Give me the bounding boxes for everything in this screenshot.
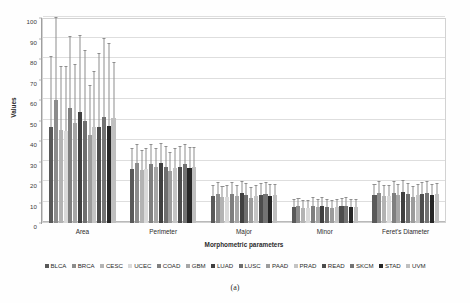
bar-stad-perimeter[interactable] [187, 148, 191, 223]
bar-ucec-major[interactable] [225, 186, 229, 223]
bar-gbm-feret-s-diameter[interactable] [396, 185, 400, 223]
bar-luad-perimeter[interactable] [159, 144, 163, 223]
bar-read-major[interactable] [259, 184, 263, 223]
legend-item-stad[interactable]: STAD [379, 262, 401, 269]
legend-swatch-icon [322, 264, 326, 268]
error-bar-cap [178, 146, 181, 147]
bar-brca-perimeter[interactable] [135, 145, 139, 223]
error-bar-line [99, 54, 100, 127]
error-bar-cap [59, 66, 62, 67]
bar-rect [59, 130, 63, 223]
bar-read-area[interactable] [97, 54, 101, 223]
legend-item-blca[interactable]: BLCA [45, 262, 67, 269]
bar-ucec-minor[interactable] [306, 201, 310, 223]
bar-luad-major[interactable] [240, 182, 244, 223]
bar-paad-feret-s-diameter[interactable] [411, 187, 415, 223]
legend-item-ucec[interactable]: UCEC [128, 262, 151, 269]
legend-item-brca[interactable]: BRCA [72, 262, 95, 269]
bar-gbm-minor[interactable] [316, 200, 320, 223]
bar-lusc-area[interactable] [83, 51, 87, 223]
legend-label: UVM [412, 262, 425, 269]
bar-brca-minor[interactable] [296, 199, 300, 223]
bar-luad-area[interactable] [78, 36, 82, 223]
bar-gbm-major[interactable] [235, 186, 239, 223]
error-bar-cap [326, 199, 329, 200]
bar-read-feret-s-diameter[interactable] [420, 183, 424, 223]
bar-coad-area[interactable] [68, 37, 72, 223]
bar-ucec-perimeter[interactable] [144, 149, 148, 223]
bar-brca-major[interactable] [216, 183, 220, 223]
bar-uvm-perimeter[interactable] [192, 148, 196, 223]
bar-gbm-area[interactable] [73, 65, 77, 223]
bar-paad-major[interactable] [249, 188, 253, 223]
bar-paad-area[interactable] [88, 86, 92, 223]
legend-item-cesc[interactable]: CESC [100, 262, 123, 269]
bar-read-minor[interactable] [339, 199, 343, 223]
bar-uvm-major[interactable] [273, 185, 277, 223]
error-bar-cap [335, 199, 338, 200]
error-bar-cap [64, 66, 67, 67]
bar-read-perimeter[interactable] [178, 147, 182, 223]
bar-coad-major[interactable] [230, 183, 234, 223]
bar-stad-feret-s-diameter[interactable] [430, 185, 434, 223]
bar-lusc-feret-s-diameter[interactable] [406, 184, 410, 223]
bar-brca-feret-s-diameter[interactable] [377, 182, 381, 223]
bar-group [123, 18, 204, 223]
bar-rect [377, 193, 381, 223]
bar-uvm-feret-s-diameter[interactable] [435, 184, 439, 223]
bar-cesc-feret-s-diameter[interactable] [382, 186, 386, 223]
bar-paad-minor[interactable] [330, 201, 334, 223]
error-bar-cap [402, 180, 405, 181]
error-bar-cap [131, 148, 134, 149]
legend-label: COAD [163, 262, 180, 269]
bar-prad-minor[interactable] [335, 200, 339, 223]
bar-coad-feret-s-diameter[interactable] [392, 182, 396, 223]
bar-paad-perimeter[interactable] [168, 153, 172, 223]
legend-item-lusc[interactable]: LUSC [239, 262, 261, 269]
bar-skcm-feret-s-diameter[interactable] [425, 182, 429, 223]
bar-cesc-area[interactable] [59, 67, 63, 223]
legend-item-luad[interactable]: LUAD [211, 262, 233, 269]
legend-item-prad[interactable]: PRAD [294, 262, 317, 269]
bar-prad-major[interactable] [254, 186, 258, 223]
legend-item-coad[interactable]: COAD [157, 262, 180, 269]
bar-blca-area[interactable] [49, 57, 53, 223]
bar-prad-feret-s-diameter[interactable] [416, 185, 420, 223]
bar-stad-minor[interactable] [349, 200, 353, 223]
bar-skcm-major[interactable] [263, 183, 267, 223]
error-bar-cap [421, 182, 424, 183]
bar-blca-feret-s-diameter[interactable] [372, 185, 376, 223]
bar-coad-perimeter[interactable] [149, 145, 153, 223]
bar-ucec-area[interactable] [64, 67, 68, 223]
legend-item-read[interactable]: READ [322, 262, 345, 269]
legend-item-paad[interactable]: PAAD [266, 262, 288, 269]
bar-luad-feret-s-diameter[interactable] [401, 181, 405, 223]
bar-uvm-area[interactable] [111, 63, 115, 223]
bar-brca-area[interactable] [54, 18, 58, 223]
bar-cesc-perimeter[interactable] [140, 151, 144, 223]
legend-item-gbm[interactable]: GBM [186, 262, 206, 269]
bar-cesc-major[interactable] [220, 187, 224, 223]
bar-lusc-major[interactable] [244, 184, 248, 223]
error-bar-cap [250, 187, 253, 188]
bar-ucec-feret-s-diameter[interactable] [387, 186, 391, 223]
bar-stad-area[interactable] [107, 44, 111, 223]
bar-lusc-minor[interactable] [325, 200, 329, 223]
bar-stad-major[interactable] [268, 185, 272, 223]
bar-skcm-perimeter[interactable] [183, 145, 187, 223]
bar-gbm-perimeter[interactable] [154, 149, 158, 223]
bar-prad-area[interactable] [92, 72, 96, 223]
bar-luad-minor[interactable] [320, 198, 324, 223]
legend-item-skcm[interactable]: SKCM [350, 262, 373, 269]
bar-lusc-perimeter[interactable] [164, 147, 168, 223]
bar-skcm-minor[interactable] [344, 198, 348, 223]
bar-prad-perimeter[interactable] [173, 149, 177, 223]
bar-uvm-minor[interactable] [354, 200, 358, 223]
bar-blca-major[interactable] [211, 186, 215, 223]
bar-cesc-minor[interactable] [301, 201, 305, 223]
legend-item-uvm[interactable]: UVM [406, 262, 425, 269]
bar-blca-perimeter[interactable] [130, 149, 134, 223]
bar-blca-minor[interactable] [292, 200, 296, 223]
bar-coad-minor[interactable] [311, 198, 315, 223]
bar-skcm-area[interactable] [102, 39, 106, 224]
